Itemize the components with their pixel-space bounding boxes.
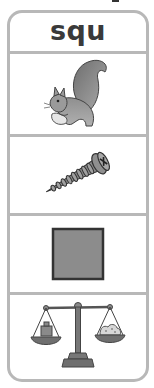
picture-panel-squirrel bbox=[10, 54, 146, 137]
picture-panel-scales bbox=[10, 295, 146, 379]
picture-panel-square bbox=[10, 216, 146, 295]
card-header: squ bbox=[10, 13, 146, 54]
picture-panel-screw bbox=[10, 137, 146, 216]
square-icon bbox=[51, 227, 105, 281]
cutoff-text-fragment bbox=[112, 0, 119, 2]
phonics-card: squ bbox=[7, 10, 149, 382]
scales-icon bbox=[30, 299, 126, 375]
squirrel-icon bbox=[38, 54, 118, 134]
letter-blend-title: squ bbox=[50, 17, 106, 44]
screw-icon bbox=[28, 145, 128, 205]
